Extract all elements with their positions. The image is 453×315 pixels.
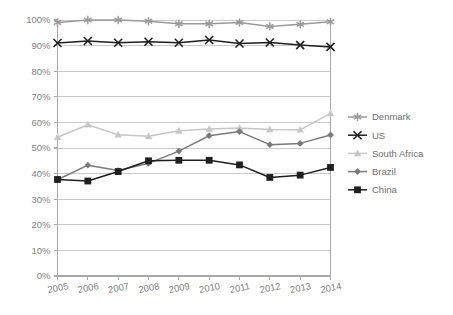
legend-item-label: South Africa: [372, 148, 424, 159]
square-marker: [236, 161, 243, 168]
legend-item-label: Denmark: [372, 111, 411, 122]
square-marker: [84, 178, 91, 185]
legend-item-denmark[interactable]: Denmark: [348, 111, 411, 122]
legend-item-label: Brazil: [372, 166, 396, 177]
square-marker: [115, 168, 122, 175]
y-axis-tick-label: 30%: [31, 194, 51, 205]
data-point-marker: [206, 157, 213, 164]
legend-item-label: China: [372, 184, 398, 195]
square-marker: [145, 157, 152, 164]
y-axis-tick-label: 0%: [37, 270, 51, 281]
square-marker: [327, 164, 334, 171]
square-marker: [354, 186, 361, 193]
square-marker: [54, 176, 61, 183]
chart-container: 0%10%20%30%40%50%60%70%80%90%100% 200520…: [0, 0, 453, 315]
y-axis-tick-label: 80%: [31, 66, 51, 77]
data-point-marker: [354, 186, 361, 193]
data-point-marker: [175, 157, 182, 164]
data-point-marker: [145, 157, 152, 164]
y-axis-tick-label: 100%: [26, 14, 51, 25]
square-marker: [175, 157, 182, 164]
y-axis-tick-label: 70%: [31, 91, 51, 102]
y-axis-tick-label: 10%: [31, 245, 51, 256]
y-axis-tick-label: 40%: [31, 168, 51, 179]
data-point-marker: [327, 164, 334, 171]
y-axis-tick-label: 20%: [31, 219, 51, 230]
legend-item-label: US: [372, 130, 385, 141]
data-point-marker: [54, 176, 61, 183]
y-axis-tick-label: 60%: [31, 117, 51, 128]
data-point-marker: [84, 178, 91, 185]
y-axis-tick-label: 50%: [31, 142, 51, 153]
data-point-marker: [236, 161, 243, 168]
data-point-marker: [115, 168, 122, 175]
square-marker: [297, 172, 304, 179]
data-point-marker: [297, 172, 304, 179]
square-marker: [206, 157, 213, 164]
y-axis-tick-label: 90%: [31, 40, 51, 51]
square-marker: [266, 174, 273, 181]
data-point-marker: [266, 174, 273, 181]
line-chart: 0%10%20%30%40%50%60%70%80%90%100% 200520…: [0, 0, 453, 315]
